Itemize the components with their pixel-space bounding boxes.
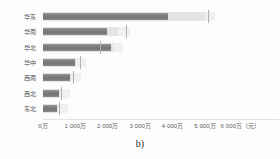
category-label-东北: 东北 xyxy=(0,101,36,116)
measure-bar xyxy=(43,105,57,112)
bar-row: 华东 xyxy=(0,9,280,24)
category-label-华南: 华南 xyxy=(0,24,36,39)
target-tick xyxy=(208,10,209,23)
category-label-西南: 西南 xyxy=(0,70,36,85)
category-label-华中: 华中 xyxy=(0,55,36,70)
bar-row: 华北 xyxy=(0,40,280,55)
measure-bar xyxy=(43,59,75,66)
axis-tick-label: 3 000万 xyxy=(129,121,151,130)
measure-bar xyxy=(43,74,70,81)
axis-tick-label: 4 000万 xyxy=(162,121,184,130)
category-label-华北: 华北 xyxy=(0,40,36,55)
axis-tick-label: 6 000万（元） xyxy=(221,121,261,130)
axis-tick-label: 0万 xyxy=(38,121,48,130)
figure-caption: b) xyxy=(0,138,280,149)
bar-row: 东北 xyxy=(0,101,280,116)
measure-bar xyxy=(43,13,168,20)
x-axis-line xyxy=(43,119,279,120)
target-tick xyxy=(59,102,60,115)
target-tick xyxy=(126,25,127,38)
axis-tick-label: 1 000万 xyxy=(65,121,87,130)
bar-row: 西北 xyxy=(0,86,280,101)
target-tick xyxy=(61,87,62,100)
category-label-西北: 西北 xyxy=(0,86,36,101)
target-tick xyxy=(80,56,81,69)
x-axis-tick-labels: 0万1 000万2 000万3 000万4 000万5 000万6 000万（元… xyxy=(0,121,280,135)
measure-bar xyxy=(43,44,111,51)
axis-tick-label: 5 000万 xyxy=(194,121,216,130)
category-label-华东: 华东 xyxy=(0,9,36,24)
axis-tick-label: 2 000万 xyxy=(97,121,119,130)
measure-bar xyxy=(43,28,107,35)
measure-bar xyxy=(43,90,59,97)
figure-panel: 华东华南华北华中西南西北东北 0万1 000万2 000万3 000万4 000… xyxy=(0,0,280,159)
target-tick xyxy=(100,41,101,54)
target-tick xyxy=(73,71,74,84)
bar-row: 华中 xyxy=(0,55,280,70)
bar-row: 华南 xyxy=(0,24,280,39)
bar-row: 西南 xyxy=(0,70,280,85)
chart-plot-area: 华东华南华北华中西南西北东北 xyxy=(0,0,280,120)
